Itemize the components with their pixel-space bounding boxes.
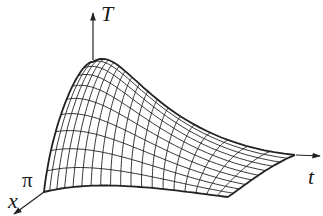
t-axis-label: t (308, 166, 314, 188)
grid-line-t (57, 59, 100, 189)
x-axis-label: x (8, 190, 18, 212)
t-axis-arrow (296, 155, 320, 156)
surface-plot-figure: T t x π (0, 0, 323, 216)
wireframe-surface (0, 0, 323, 216)
grid-line-x (47, 168, 233, 194)
grid-line-t (142, 100, 158, 188)
grid-line-x (67, 98, 259, 175)
grid-line-t (121, 84, 140, 186)
pi-tick-label: π (22, 170, 33, 191)
T-axis-label: T (101, 3, 113, 25)
grid-line-x (78, 75, 273, 167)
x-axis-arrow (14, 192, 44, 214)
surface-mesh (47, 59, 288, 196)
edge-tend (228, 155, 295, 197)
edge-t0 (44, 62, 93, 192)
